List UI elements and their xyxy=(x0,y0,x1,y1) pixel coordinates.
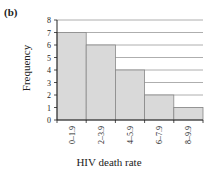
x-tick-label: 2–3.9 xyxy=(97,126,106,144)
histogram-bar xyxy=(57,33,86,121)
y-tick-label: 2 xyxy=(47,91,51,100)
y-tick-label: 3 xyxy=(47,79,51,88)
histogram-bar xyxy=(145,95,174,120)
y-tick-label: 6 xyxy=(47,41,51,50)
y-tick-label: 7 xyxy=(47,29,51,38)
histogram-plot: 0123456780–1.92–3.94–5.96–7.98–9.9 xyxy=(0,0,218,176)
histogram-bar xyxy=(174,108,203,121)
y-tick-label: 5 xyxy=(47,54,51,63)
x-tick-label: 4–5.9 xyxy=(126,126,135,144)
y-tick-label: 4 xyxy=(47,66,51,75)
y-tick-label: 8 xyxy=(47,16,51,25)
histogram-bar xyxy=(115,70,144,120)
x-tick-label: 0–1.9 xyxy=(68,126,77,144)
y-tick-label: 0 xyxy=(47,116,51,125)
histogram-bar xyxy=(86,45,115,120)
x-tick-label: 6–7.9 xyxy=(155,126,164,144)
x-tick-label: 8–9.9 xyxy=(184,126,193,144)
y-tick-label: 1 xyxy=(47,104,51,113)
